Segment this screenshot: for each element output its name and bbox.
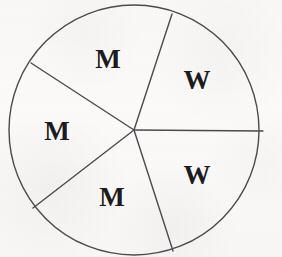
divider-upper-right xyxy=(134,14,172,130)
figure-canvas: M W M W M xyxy=(0,0,282,257)
sector-label-upper-right-w: W xyxy=(184,65,211,95)
sector-label-top-m: M xyxy=(95,44,120,74)
divider-lower-right xyxy=(134,130,173,251)
sector-label-bottom-m: M xyxy=(99,182,124,212)
pie-diagram: M W M W M xyxy=(0,0,282,257)
sector-label-lower-right-w: W xyxy=(184,160,211,190)
sector-label-left-m: M xyxy=(44,116,69,146)
divider-right xyxy=(134,130,263,131)
